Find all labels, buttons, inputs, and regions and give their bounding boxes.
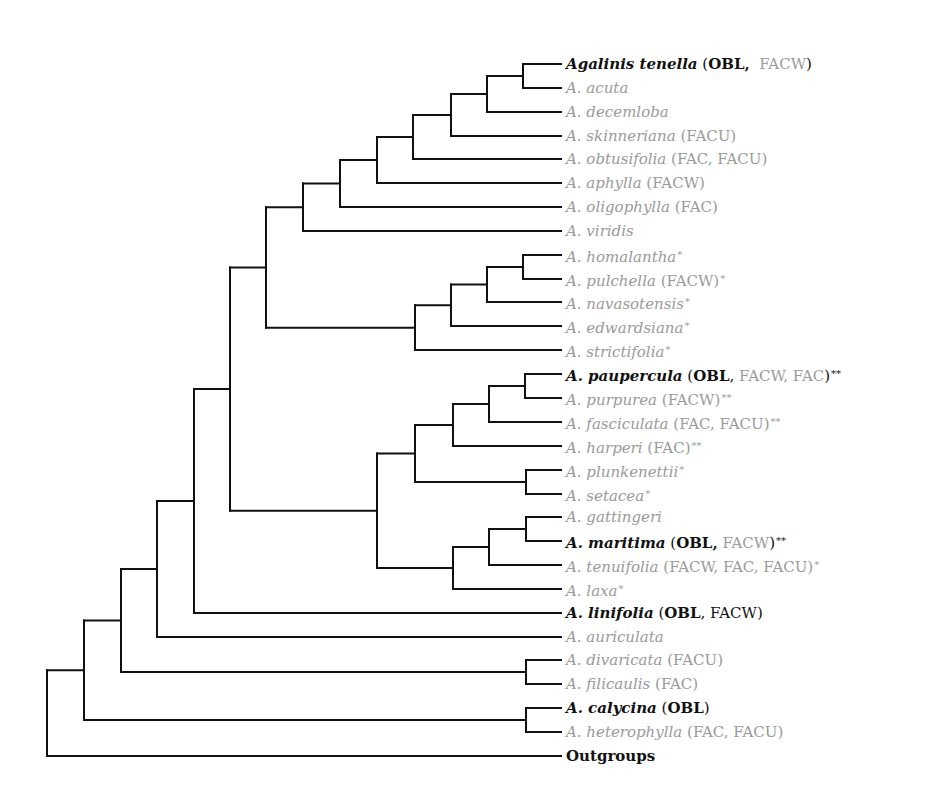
taxon-name: A. decemloba <box>566 103 669 121</box>
significance-marker: ** <box>721 392 731 403</box>
taxon-name: A. fasciculata <box>566 415 669 433</box>
taxon-label: A. navasotensis* <box>566 291 690 313</box>
taxon-name: A. filicaulis <box>566 675 650 693</box>
wetland-status: (FACW) <box>657 391 720 409</box>
significance-marker: * <box>677 249 682 260</box>
wetland-status: (FAC, FACU) <box>666 150 767 168</box>
taxon-name: A. divaricata <box>566 651 662 669</box>
taxon-label: A. laxa* <box>566 578 624 600</box>
taxon-label: A. viridis <box>566 220 634 242</box>
wetland-status: (FACW) <box>642 174 705 192</box>
wetland-status: ) <box>769 534 775 552</box>
taxon-label: A. pulchella (FACW)* <box>566 268 725 290</box>
significance-marker: * <box>679 464 684 475</box>
taxon-name: A. aphylla <box>566 174 642 192</box>
taxon-name: Agalinis tenella <box>566 55 698 73</box>
taxon-label: A. acuta <box>566 77 628 99</box>
taxon-label: A. maritima (OBL, FACW)** <box>566 530 786 552</box>
taxon-labels: Agalinis tenella (OBL, FACW)A. acutaA. d… <box>0 0 941 800</box>
wetland-status: OBL <box>664 604 700 622</box>
taxon-name: A. skinneriana <box>566 127 676 145</box>
wetland-status: OBL, <box>676 534 718 552</box>
wetland-status: ( <box>683 367 694 385</box>
significance-marker: ** <box>771 416 781 427</box>
taxon-name: A. navasotensis <box>566 295 684 313</box>
taxon-label: A. gattingeri <box>566 506 662 528</box>
taxon-name: A. plunkenettii <box>566 463 678 481</box>
wetland-status: ( <box>666 534 677 552</box>
taxon-label: Agalinis tenella (OBL, FACW) <box>566 53 812 75</box>
taxon-label: A. obtusifolia (FAC, FACU) <box>566 148 767 170</box>
taxon-label: A. linifolia (OBL, FACW) <box>566 602 763 624</box>
taxon-label: A. purpurea (FACW)** <box>566 387 731 409</box>
wetland-status: ( <box>657 699 668 717</box>
wetland-status: (FACU) <box>662 651 723 669</box>
taxon-label: A. strictifolia* <box>566 339 670 361</box>
significance-marker: ** <box>691 440 701 451</box>
taxon-label: A. aphylla (FACW) <box>566 172 705 194</box>
wetland-status: FACW <box>718 534 770 552</box>
taxon-name: A. strictifolia <box>566 343 664 361</box>
taxon-label: A. tenuifolia (FACW, FAC, FACU)* <box>566 554 819 576</box>
wetland-status: ) <box>704 699 710 717</box>
taxon-name: A. edwardsiana <box>566 319 683 337</box>
significance-marker: * <box>619 583 624 594</box>
taxon-label: A. filicaulis (FAC) <box>566 673 698 695</box>
taxon-name: A. gattingeri <box>566 508 662 526</box>
significance-marker: * <box>665 344 670 355</box>
wetland-status: (FACW, FAC, FACU) <box>659 558 814 576</box>
wetland-status: FACW <box>750 55 806 73</box>
taxon-name: A. acuta <box>566 79 628 97</box>
taxon-name: A. paupercula <box>566 367 683 385</box>
taxon-label: Outgroups <box>566 745 655 767</box>
wetland-status: ( <box>654 604 665 622</box>
wetland-status: ( <box>698 55 709 73</box>
taxon-label: A. calycina (OBL) <box>566 697 710 719</box>
wetland-status: , FACW) <box>701 604 763 622</box>
wetland-status: (FAC) <box>650 675 698 693</box>
taxon-name: A. tenuifolia <box>566 558 659 576</box>
wetland-status: FACW, FAC <box>734 367 824 385</box>
wetland-status: ) <box>806 55 812 73</box>
wetland-status: (FAC, FACU) <box>682 723 783 741</box>
wetland-status: OBL <box>667 699 703 717</box>
taxon-name: A. harperi <box>566 439 643 457</box>
significance-marker: * <box>645 488 650 499</box>
taxon-label: A. skinneriana (FACU) <box>566 125 736 147</box>
taxon-label: A. edwardsiana* <box>566 315 689 337</box>
taxon-label: A. decemloba <box>566 101 669 123</box>
taxon-label: A. plunkenettii* <box>566 459 684 481</box>
taxon-name: A. viridis <box>566 222 634 240</box>
taxon-name: A. homalantha <box>566 248 676 266</box>
significance-marker: * <box>685 296 690 307</box>
taxon-name: A. linifolia <box>566 604 654 622</box>
significance-marker: * <box>814 559 819 570</box>
wetland-status: (FAC) <box>643 439 691 457</box>
taxon-name: A. purpurea <box>566 391 657 409</box>
taxon-label: A. fasciculata (FAC, FACU)** <box>566 411 781 433</box>
wetland-status: (FACU) <box>676 127 737 145</box>
taxon-name: A. calycina <box>566 699 657 717</box>
taxon-label: A. heterophylla (FAC, FACU) <box>566 721 783 743</box>
taxon-label: A. oligophylla (FAC) <box>566 196 718 218</box>
wetland-status: (FAC) <box>670 198 718 216</box>
taxon-label: A. setacea* <box>566 483 650 505</box>
taxon-name: A. oligophylla <box>566 198 670 216</box>
taxon-name: Outgroups <box>566 747 655 765</box>
taxon-label: A. homalantha* <box>566 244 682 266</box>
taxon-name: A. auriculata <box>566 628 664 646</box>
taxon-name: A. heterophylla <box>566 723 682 741</box>
taxon-name: A. maritima <box>566 534 666 552</box>
taxon-name: A. setacea <box>566 487 644 505</box>
taxon-label: A. auriculata <box>566 626 664 648</box>
wetland-status: OBL <box>693 367 729 385</box>
taxon-name: A. obtusifolia <box>566 150 666 168</box>
taxon-name: A. pulchella <box>566 272 656 290</box>
taxon-label: A. harperi (FAC)** <box>566 435 701 457</box>
wetland-status: OBL, <box>708 55 750 73</box>
taxon-label: A. paupercula (OBL, FACW, FAC)** <box>566 363 841 385</box>
significance-marker: * <box>720 273 725 284</box>
wetland-status: ) <box>824 367 830 385</box>
wetland-status: (FAC, FACU) <box>669 415 770 433</box>
significance-marker: ** <box>831 368 841 379</box>
